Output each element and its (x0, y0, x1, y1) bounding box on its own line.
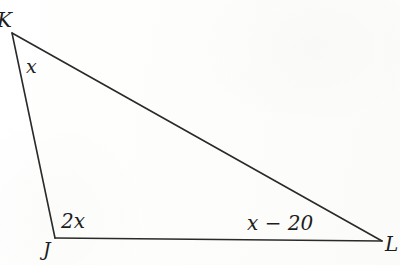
vertex-label-l: L (385, 234, 398, 254)
triangle-figure: K J L x 2x x − 20 (0, 0, 400, 265)
vertex-label-j: J (43, 240, 51, 259)
angle-measure-l: x − 20 (247, 213, 313, 233)
triangle-side-base (55, 238, 382, 241)
angle-measure-apex: x (26, 57, 37, 76)
vertex-label-apex: K (0, 10, 12, 30)
triangle-drawing (0, 0, 400, 265)
angle-measure-j: 2x (61, 211, 85, 231)
